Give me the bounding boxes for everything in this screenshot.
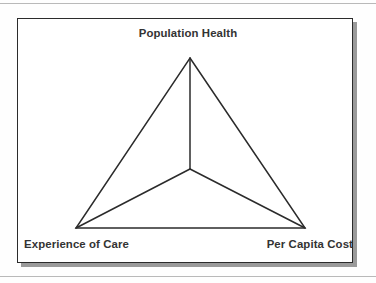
spoke-to-experience-of-care — [76, 169, 190, 228]
spoke-to-per-capita-cost — [190, 169, 305, 228]
label-experience-of-care: Experience of Care — [24, 239, 129, 250]
label-population-health: Population Health — [0, 28, 376, 39]
page-rule-bottom — [0, 276, 376, 277]
label-per-capita-cost: Per Capita Cost — [267, 239, 353, 250]
